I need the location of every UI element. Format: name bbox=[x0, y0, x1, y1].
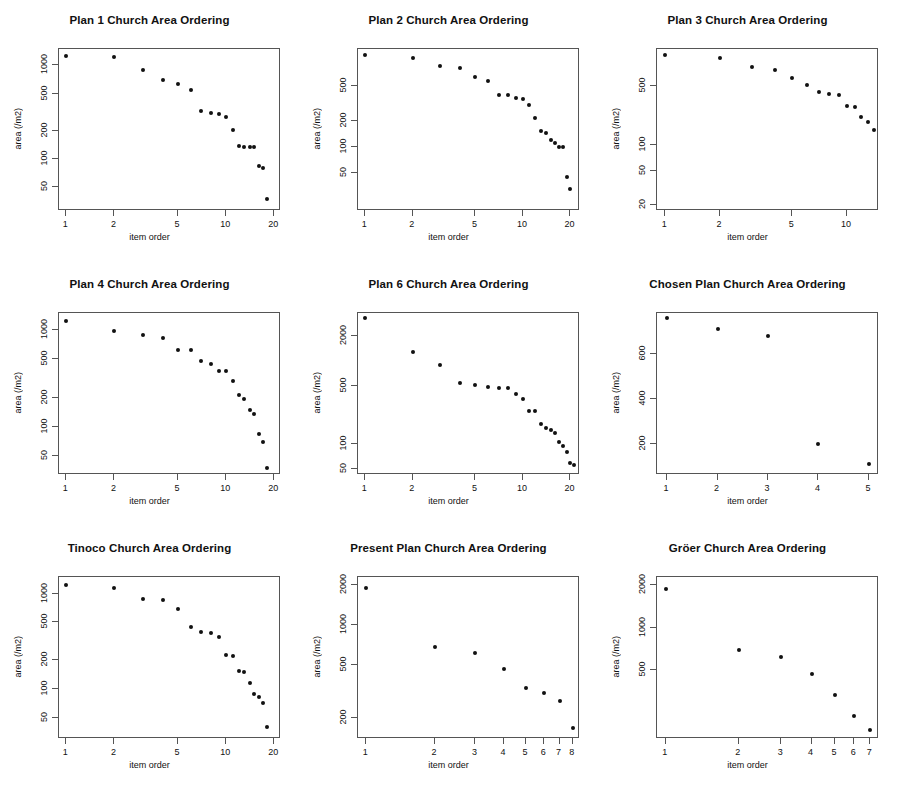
y-axis-tick-label: 600 bbox=[637, 345, 647, 360]
y-axis-title-text: area (/m2) bbox=[13, 108, 23, 150]
data-point bbox=[224, 115, 228, 119]
y-axis-title-text: area (/m2) bbox=[13, 636, 23, 678]
data-point bbox=[242, 145, 246, 149]
data-point bbox=[571, 726, 575, 730]
data-point bbox=[64, 319, 68, 323]
y-axis-tick-label: 1000 bbox=[39, 54, 49, 74]
y-axis-tick-label: 200 bbox=[39, 389, 49, 404]
x-axis-tick bbox=[364, 474, 365, 480]
y-axis-tick bbox=[52, 621, 58, 622]
panel-title: Plan 1 Church Area Ordering bbox=[0, 14, 299, 26]
y-axis-tick-label: 2000 bbox=[338, 325, 348, 345]
x-axis-tick-label: 7 bbox=[867, 747, 872, 757]
x-axis-tick bbox=[868, 474, 869, 480]
plot-area bbox=[656, 48, 878, 210]
x-axis-tick-label: 20 bbox=[268, 747, 278, 757]
x-axis-tick bbox=[869, 738, 870, 744]
data-point bbox=[810, 672, 814, 676]
data-point bbox=[527, 409, 531, 413]
y-axis-tick bbox=[650, 584, 656, 585]
data-point bbox=[141, 333, 145, 337]
y-axis: 501002005001000 bbox=[52, 576, 58, 738]
data-point bbox=[718, 56, 722, 60]
data-point bbox=[237, 669, 241, 673]
data-point bbox=[868, 728, 872, 732]
data-point bbox=[544, 131, 548, 135]
data-point bbox=[561, 145, 565, 149]
y-axis: 501005002000 bbox=[351, 312, 357, 474]
y-axis-tick bbox=[351, 717, 357, 718]
x-axis-tick bbox=[719, 210, 720, 216]
y-axis-tick-label: 1000 bbox=[637, 617, 647, 637]
y-axis-title-text: area (/m2) bbox=[611, 372, 621, 414]
x-axis-tick-label: 5 bbox=[789, 219, 794, 229]
x-axis: 12345 bbox=[656, 474, 878, 480]
x-axis-tick-label: 2 bbox=[111, 219, 116, 229]
plot-area bbox=[357, 312, 579, 474]
y-axis-tick-label: 500 bbox=[338, 657, 348, 672]
y-axis-title-text: area (/m2) bbox=[13, 372, 23, 414]
data-point bbox=[265, 466, 269, 470]
data-point bbox=[141, 597, 145, 601]
data-point bbox=[199, 109, 203, 113]
y-axis-title: area (/m2) bbox=[12, 48, 24, 210]
x-axis-tick-label: 10 bbox=[220, 747, 230, 757]
data-point bbox=[533, 409, 537, 413]
data-point bbox=[790, 76, 794, 80]
x-axis-tick bbox=[364, 210, 365, 216]
x-axis-tick-label: 4 bbox=[808, 747, 813, 757]
y-axis-tick bbox=[650, 398, 656, 399]
y-axis-tick-label: 500 bbox=[637, 661, 647, 676]
x-axis-tick bbox=[666, 474, 667, 480]
x-axis-title: item order bbox=[598, 232, 897, 242]
data-point bbox=[837, 93, 841, 97]
x-axis-tick-label: 1 bbox=[363, 747, 368, 757]
data-point bbox=[176, 82, 180, 86]
data-point bbox=[209, 111, 213, 115]
panel-title: Plan 2 Church Area Ordering bbox=[299, 14, 598, 26]
x-axis-title: item order bbox=[0, 496, 299, 506]
data-point bbox=[549, 428, 553, 432]
y-axis-tick-label: 1000 bbox=[338, 614, 348, 634]
data-point bbox=[224, 369, 228, 373]
data-point bbox=[363, 316, 367, 320]
x-axis-tick-label: 2 bbox=[111, 483, 116, 493]
y-axis-tick-label: 200 bbox=[637, 435, 647, 450]
data-point bbox=[189, 348, 193, 352]
data-point bbox=[161, 598, 165, 602]
x-axis-tick bbox=[474, 210, 475, 216]
x-axis-tick bbox=[177, 738, 178, 744]
data-point bbox=[558, 699, 562, 703]
x-axis-tick bbox=[412, 474, 413, 480]
y-axis-title: area (/m2) bbox=[12, 312, 24, 474]
plot-area bbox=[58, 576, 280, 738]
y-axis-tick-label: 50 bbox=[338, 167, 348, 177]
data-point bbox=[544, 426, 548, 430]
data-point bbox=[845, 104, 849, 108]
y-axis-tick-label: 200 bbox=[338, 112, 348, 127]
x-axis-tick bbox=[665, 738, 666, 744]
data-point bbox=[779, 655, 783, 659]
y-axis-tick-label: 1000 bbox=[39, 583, 49, 603]
data-point bbox=[473, 651, 477, 655]
y-axis-tick-label: 100 bbox=[39, 419, 49, 434]
data-point bbox=[64, 54, 68, 58]
data-point bbox=[433, 645, 437, 649]
data-point bbox=[568, 187, 572, 191]
x-axis-tick-label: 20 bbox=[268, 219, 278, 229]
data-point bbox=[866, 120, 870, 124]
x-axis-tick-label: 2 bbox=[432, 747, 437, 757]
chart-panel-6: Chosen Plan Church Area Orderingarea (/m… bbox=[598, 264, 897, 528]
y-axis-tick bbox=[351, 468, 357, 469]
x-axis-tick-label: 10 bbox=[220, 483, 230, 493]
y-axis-tick-label: 100 bbox=[338, 435, 348, 450]
x-axis-tick bbox=[525, 738, 526, 744]
x-axis-tick bbox=[738, 738, 739, 744]
data-point bbox=[473, 383, 477, 387]
x-axis-tick bbox=[780, 738, 781, 744]
chart-panel-2: Plan 2 Church Area Orderingarea (/m2)ite… bbox=[299, 0, 598, 264]
y-axis-tick bbox=[351, 335, 357, 336]
panel-title: Present Plan Church Area Ordering bbox=[299, 542, 598, 554]
y-axis-tick bbox=[52, 329, 58, 330]
x-axis-tick bbox=[503, 738, 504, 744]
